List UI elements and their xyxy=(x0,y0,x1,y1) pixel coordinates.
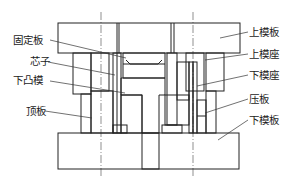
left-side-guide xyxy=(73,53,91,133)
label-core: 芯子 xyxy=(30,55,50,67)
lower-die-plate xyxy=(58,133,239,169)
upper-die-holder xyxy=(91,53,204,91)
lower-punch xyxy=(121,78,165,133)
label-pressure-plate: 压板 xyxy=(249,93,270,105)
label-upper-die-plate: 上模板 xyxy=(249,26,280,38)
left-pin xyxy=(113,53,121,133)
leader-core xyxy=(48,62,115,75)
label-lower-punch: 下凸模 xyxy=(13,74,44,86)
leader-lower-die-holder xyxy=(197,75,248,86)
leader-upper-die-plate xyxy=(220,32,248,38)
mold-cross-section-diagram: 固定板 芯子 下凸模 顶板 上模板 上模座 下模座 压板 下模板 xyxy=(0,0,293,184)
label-lower-die-holder: 下模座 xyxy=(249,69,279,81)
leader-upper-die-holder xyxy=(205,54,248,60)
right-side-guide xyxy=(206,53,224,133)
leader-lower-die-plate xyxy=(218,120,248,140)
pressure-plate xyxy=(165,95,206,133)
label-fixed-plate: 固定板 xyxy=(13,34,44,46)
label-lower-die-plate: 下模板 xyxy=(249,114,280,126)
leader-ejector-plate xyxy=(45,111,92,118)
lower-die-holder xyxy=(177,62,197,133)
label-ejector-plate: 顶板 xyxy=(26,105,47,117)
label-upper-die-holder: 上模座 xyxy=(249,48,279,60)
leader-fixed-plate xyxy=(50,40,126,58)
leader-pressure-plate xyxy=(205,99,248,113)
core-block xyxy=(123,53,165,78)
leader-lower-punch xyxy=(50,81,125,93)
